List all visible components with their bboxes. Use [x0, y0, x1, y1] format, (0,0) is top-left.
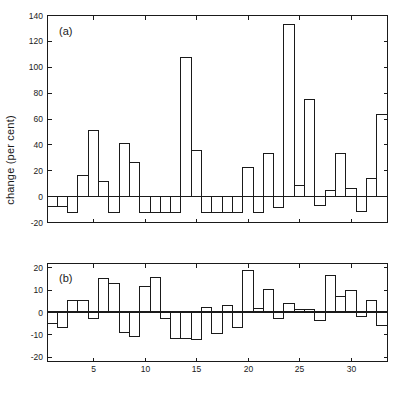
panel-title: (b) [59, 272, 72, 284]
y-tick-label: 120 [29, 36, 43, 46]
panel-title: (a) [59, 25, 72, 37]
y-tick-label: 0 [38, 192, 43, 202]
y-tick-label: 0 [38, 308, 43, 318]
chart-canvas: -20020406080100120140(a) -20-10010205101… [0, 0, 395, 397]
y-tick-label: -20 [31, 352, 44, 362]
x-tick-label: 10 [141, 364, 151, 374]
x-tick-label: 5 [91, 364, 96, 374]
panel-a: -20020406080100120140(a) [29, 11, 388, 228]
x-tick-label: 20 [244, 364, 254, 374]
y-tick-label: -20 [31, 218, 44, 228]
x-tick-label: 15 [192, 364, 202, 374]
y-tick-label: 20 [34, 166, 44, 176]
y-tick-label: 10 [34, 285, 44, 295]
x-tick-label: 30 [347, 364, 357, 374]
figure-container: change (per cent) -20020406080100120140(… [0, 0, 395, 397]
y-tick-label: -10 [31, 330, 44, 340]
y-tick-label: 140 [29, 11, 43, 21]
y-axis-label-container: change (per cent) [2, 90, 18, 230]
bar-series-outline [47, 24, 387, 213]
y-tick-label: 100 [29, 62, 43, 72]
x-tick-label: 25 [295, 364, 305, 374]
y-tick-label: 40 [34, 140, 44, 150]
panel-b: -20-100102051015202530(b) [31, 263, 388, 374]
y-axis-label: change (per cent) [4, 115, 16, 205]
y-tick-label: 80 [34, 88, 44, 98]
bar-series-outline [47, 271, 387, 340]
y-tick-label: 60 [34, 114, 44, 124]
y-tick-label: 20 [34, 263, 44, 273]
